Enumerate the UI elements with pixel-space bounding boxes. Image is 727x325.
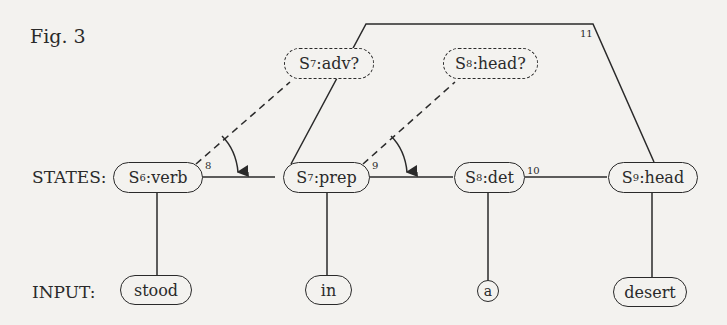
states-row-label: STATES:	[32, 167, 107, 187]
input-node-stood: stood	[120, 275, 192, 305]
input-node-desert: desert	[613, 277, 687, 307]
expectation-node-head: S8:head?	[443, 48, 538, 79]
state-node-det: S8:det	[454, 162, 525, 193]
edge-number-11: 11	[580, 28, 593, 39]
state-node-head: S9:head	[608, 162, 698, 193]
edge-number-9: 9	[372, 160, 378, 171]
input-node-a: a	[477, 280, 499, 302]
figure-title: Fig. 3	[30, 25, 86, 47]
state-node-verb: S6:verb	[113, 162, 203, 193]
edge-number-8: 8	[205, 160, 211, 171]
edge-number-10: 10	[527, 165, 540, 176]
expectation-node-adv: S7:adv?	[284, 48, 374, 79]
input-row-label: INPUT:	[32, 282, 96, 302]
input-node-in: in	[305, 275, 352, 305]
state-node-prep: S7:prep	[283, 162, 370, 193]
